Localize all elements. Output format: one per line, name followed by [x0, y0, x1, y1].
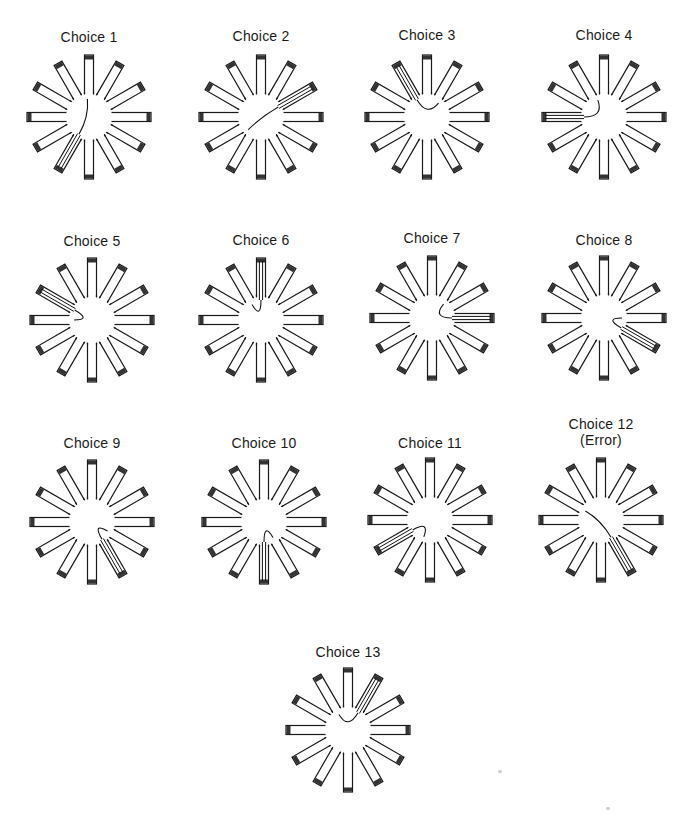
scan-artifact	[498, 770, 502, 773]
food-cup-icon	[150, 518, 154, 526]
radial-arm-maze	[189, 447, 339, 597]
choice-title: Choice 4	[576, 27, 633, 43]
scan-artifact	[606, 807, 610, 810]
food-cup-icon	[257, 175, 265, 179]
food-cup-icon	[319, 316, 323, 324]
food-cup-icon	[600, 257, 608, 261]
radial-arm-maze	[17, 245, 167, 395]
food-cup-icon	[485, 113, 489, 121]
food-cup-icon	[88, 259, 96, 263]
food-cup-icon	[488, 516, 492, 524]
food-cup-icon	[287, 726, 291, 734]
food-cup-icon	[88, 378, 96, 382]
food-cup-icon	[200, 113, 204, 121]
food-cup-icon	[150, 316, 154, 324]
radial-arm-maze	[186, 245, 336, 395]
food-cup-icon	[147, 113, 151, 121]
food-cup-icon	[260, 461, 268, 465]
food-cup-icon	[28, 113, 32, 121]
food-cup-icon	[260, 580, 268, 584]
food-cup-icon	[543, 314, 547, 322]
food-cup-icon	[540, 516, 544, 524]
food-cup-icon	[406, 726, 410, 734]
food-cup-icon	[371, 314, 375, 322]
food-cup-icon	[428, 257, 436, 261]
food-cup-icon	[257, 56, 265, 60]
food-cup-icon	[659, 516, 663, 524]
maze-hub	[407, 497, 453, 543]
food-cup-icon	[31, 518, 35, 526]
radial-arm-maze	[526, 445, 676, 595]
food-cup-icon	[203, 518, 207, 526]
food-cup-icon	[600, 56, 608, 60]
choice-title: Choice 12	[569, 416, 634, 432]
food-cup-icon	[85, 175, 93, 179]
food-cup-icon	[200, 316, 204, 324]
food-cup-icon	[257, 259, 265, 263]
food-cup-icon	[369, 516, 373, 524]
food-cup-icon	[319, 113, 323, 121]
food-cup-icon	[88, 461, 96, 465]
radial-arm-maze	[355, 445, 505, 595]
maze-hub	[325, 707, 371, 753]
food-cup-icon	[597, 459, 605, 463]
food-cup-icon	[426, 459, 434, 463]
food-cup-icon	[662, 314, 666, 322]
maze-hub	[238, 94, 284, 140]
food-cup-icon	[423, 175, 431, 179]
maze-hub	[69, 499, 115, 545]
choice-label: Choice 4	[576, 27, 633, 43]
food-cup-icon	[597, 578, 605, 582]
choice-label: Choice 12(Error)	[569, 416, 634, 448]
maze-hub	[66, 94, 112, 140]
radial-arm-maze	[17, 447, 167, 597]
radial-arm-maze	[529, 243, 679, 393]
radial-arm-maze	[186, 42, 336, 192]
food-cup-icon	[31, 316, 35, 324]
food-cup-icon	[423, 56, 431, 60]
food-cup-icon	[600, 175, 608, 179]
food-cup-icon	[426, 578, 434, 582]
food-cup-icon	[344, 669, 352, 673]
food-cup-icon	[344, 788, 352, 792]
food-cup-icon	[366, 113, 370, 121]
maze-hub	[578, 497, 624, 543]
food-cup-icon	[662, 113, 666, 121]
maze-hub	[404, 94, 450, 140]
food-cup-icon	[428, 376, 436, 380]
food-cup-icon	[322, 518, 326, 526]
food-cup-icon	[85, 56, 93, 60]
radial-arm-maze	[357, 243, 507, 393]
food-cup-icon	[543, 113, 547, 121]
choice-title: Choice 3	[399, 27, 456, 43]
food-cup-icon	[88, 580, 96, 584]
radial-arm-maze	[273, 655, 423, 805]
choice-label: Choice 3	[399, 27, 456, 43]
radial-arm-maze	[352, 42, 502, 192]
food-cup-icon	[490, 314, 494, 322]
radial-arm-maze	[14, 42, 164, 192]
food-cup-icon	[257, 378, 265, 382]
food-cup-icon	[600, 376, 608, 380]
radial-arm-maze	[529, 42, 679, 192]
